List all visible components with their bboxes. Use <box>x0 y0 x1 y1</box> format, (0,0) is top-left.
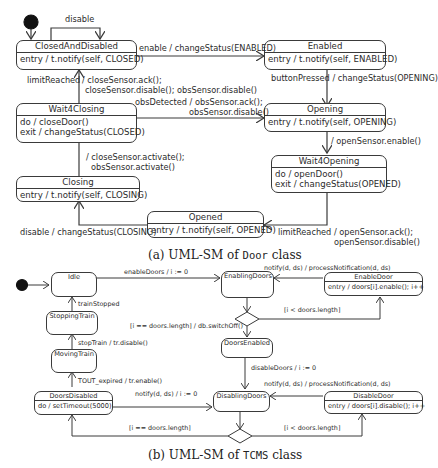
state-do-action: do / setTimeout(5000) <box>35 401 112 411</box>
state-name: DisableDoor <box>325 392 422 401</box>
transition-label: disableDoors / i := 0 <box>251 364 316 372</box>
state-exit-action: exit / changeStatus(CLOSED) <box>20 127 133 138</box>
caption-text: (a) UML-SM of <box>148 248 243 262</box>
state-name: Enabled <box>265 41 385 53</box>
transition-label: notify(d, ds) / i := 0 <box>135 390 197 398</box>
state-idle: Idle <box>51 272 97 297</box>
transition-label: trainStopped <box>78 300 119 308</box>
transition-label: obsSensor.disable() <box>189 107 269 117</box>
caption-text: (b) UML-SM of <box>148 448 243 462</box>
state-opened: Opened entry / t.notify(self, OPENED) <box>147 211 264 238</box>
state-body: do / openDoor() exit / changeStatus(OPEN… <box>272 168 386 191</box>
state-entry-action: entry / doors[i].disable(); i++ <box>325 401 422 411</box>
state-disabling-doors: DisablingDoors <box>213 391 270 412</box>
state-enabling-doors: EnablingDoors <box>221 271 274 298</box>
transition-label: [i == doors.length] <box>129 424 191 432</box>
state-name: ClosedAndDisabled <box>17 41 136 53</box>
state-entry-action: entry / t.notify(self, CLOSING) <box>17 189 139 202</box>
state-enabled: Enabled entry / t.notify(self, ENABLED) <box>264 40 386 70</box>
state-enable-door: EnableDoor entry / doors[i].enable(); i+… <box>324 272 423 296</box>
state-do-action: do / closeDoor() <box>20 117 133 128</box>
state-stopping-train: StoppingTrain <box>46 311 98 335</box>
state-closing: Closing entry / t.notify(self, CLOSING) <box>16 176 140 202</box>
state-name: Opened <box>148 212 263 224</box>
transition-label: openSensor.disable() <box>334 237 420 247</box>
transition-label: TOUT_expired / tr.enable() <box>78 377 162 385</box>
state-doors-enabled: DoorsEnabled <box>221 338 273 358</box>
transition-label: / closeSensor.ack(); <box>82 75 162 85</box>
state-name: DisablingDoors <box>214 392 269 400</box>
state-wait4closing: Wait4Closing do / closeDoor() exit / cha… <box>16 103 137 143</box>
transition-label: / openSensor.enable() <box>331 136 421 146</box>
transition-label: [i < doors.length] <box>284 424 340 432</box>
state-body: do / closeDoor() exit / changeStatus(CLO… <box>17 116 136 139</box>
transition-label: limitReached <box>27 75 80 85</box>
caption-class: TCMS <box>243 449 268 461</box>
caption-class: Door <box>243 249 268 261</box>
state-do-action: do / openDoor() <box>275 169 383 180</box>
state-entry-action: entry / t.notify(self, OPENING) <box>265 116 385 129</box>
caption-b: (b) UML-SM of TCMS class <box>148 448 302 462</box>
state-entry-action: entry / t.notify(self, CLOSED) <box>17 53 136 66</box>
state-exit-action: exit / changeStatus(OPENED) <box>275 179 383 190</box>
state-moving-train: MovingTrain <box>51 349 97 373</box>
state-name: Wait4Opening <box>272 156 386 168</box>
transition-label: enableDoors / i := 0 <box>124 268 188 276</box>
state-name: Idle <box>52 273 96 281</box>
state-entry-action: entry / t.notify(self, ENABLED) <box>265 53 385 66</box>
state-name: MovingTrain <box>52 350 96 358</box>
transition-label: closeSensor.disable(); obsSensor.disable… <box>85 85 257 95</box>
state-closed-and-disabled: ClosedAndDisabled entry / t.notify(self,… <box>16 40 137 70</box>
transition-label: limitReached / openSensor.ack(); <box>278 227 413 237</box>
transition-label: [i == doors.length] / db.switchOff() <box>130 322 243 330</box>
transition-label: disable / changeStatus(CLOSING) <box>20 227 156 237</box>
transition-label: [i < doors.length] <box>284 306 340 314</box>
transition-label: obsDetected / obsSensor.ack(); <box>135 97 263 107</box>
transition-label: notify(d, ds) / processNotification(d, d… <box>264 264 391 272</box>
caption-text: class <box>268 448 302 462</box>
state-opening: Opening entry / t.notify(self, OPENING) <box>264 103 386 132</box>
state-name: Closing <box>17 177 139 189</box>
transition-label: stopTrain / tr.disable() <box>78 339 148 347</box>
transition-label: enable / changeStatus(ENABLED) <box>139 43 276 53</box>
state-name: StoppingTrain <box>47 312 97 320</box>
state-entry-action: entry / t.notify(self, OPENED) <box>148 224 263 237</box>
state-name: DoorsEnabled <box>222 339 272 347</box>
caption-a: (a) UML-SM of Door class <box>148 248 302 262</box>
state-entry-action: entry / doors[i].enable(); i++ <box>325 282 422 292</box>
state-disable-door: DisableDoor entry / doors[i].disable(); … <box>324 391 423 414</box>
state-name: Opening <box>265 104 385 116</box>
state-wait4opening: Wait4Opening do / openDoor() exit / chan… <box>271 155 387 193</box>
transition-label: notify(d, ds) / processNotification(d, d… <box>264 380 391 388</box>
state-name: EnableDoor <box>325 273 422 282</box>
caption-text: class <box>268 248 302 262</box>
initial-state-b <box>17 280 28 291</box>
transition-label: disable <box>65 14 94 24</box>
initial-state-a <box>24 15 38 29</box>
transition-label: buttonPressed / changeStatus(OPENING) <box>271 73 438 83</box>
transition-label: obsSensor.activate() <box>91 162 175 172</box>
state-doors-disabled: DoorsDisabled do / setTimeout(5000) <box>34 391 113 415</box>
state-name: DoorsDisabled <box>35 392 112 401</box>
state-name: EnablingDoors <box>222 272 273 280</box>
state-name: Wait4Closing <box>17 104 136 116</box>
transition-label: / closeSensor.activate(); <box>86 152 185 162</box>
